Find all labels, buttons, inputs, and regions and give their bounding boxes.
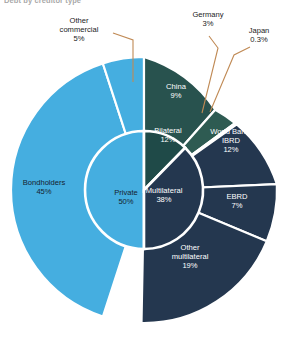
sunburst-chart-svg: [0, 0, 290, 344]
callout-label-germany: Germany 3%: [180, 10, 236, 28]
callout-label-other-commercial: Other commercial 5%: [44, 16, 114, 44]
pie-chart-figure: Debt by creditor type: [0, 0, 290, 344]
callout-label-japan: Japan 0.3%: [236, 26, 282, 44]
